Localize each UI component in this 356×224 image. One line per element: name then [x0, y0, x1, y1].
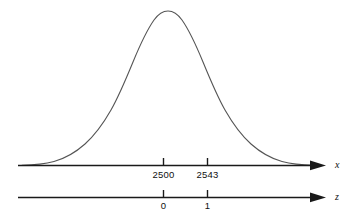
z-axis-tick-label-0: 0 [161, 200, 166, 211]
figure-canvas [0, 0, 356, 224]
x-axis-arrowhead [310, 161, 326, 171]
x-axis-tick-label-2500: 2500 [153, 169, 175, 180]
z-axis-arrowhead [310, 193, 326, 203]
bell-curve-path [22, 11, 314, 165]
normal-distribution-figure: 2500 2543 0 1 x z [0, 0, 356, 224]
z-axis-tick-label-1: 1 [205, 200, 210, 211]
x-axis-label: x [335, 159, 339, 170]
z-axis-label: z [335, 191, 339, 202]
x-axis-tick-label-2543: 2543 [197, 169, 219, 180]
